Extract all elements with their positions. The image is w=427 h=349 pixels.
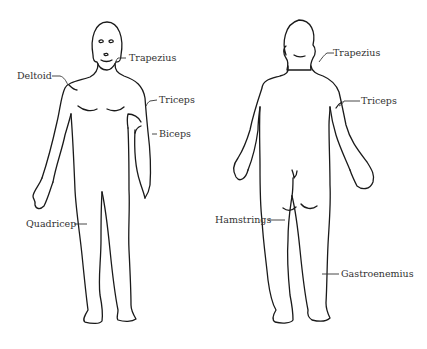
front-figure [33,22,150,323]
label-triceps-back: Triceps [361,96,397,106]
label-triceps-front: Triceps [159,95,195,105]
label-quadricep: Quadricep [26,219,76,229]
label-hamstrings: Hamstrings [215,215,271,225]
label-gastrocnemius: Gastroenemius [341,269,414,279]
label-trapezius-front: Trapezius [129,53,176,63]
muscle-diagram: Deltoid Trapezius Triceps Biceps Quadric… [0,0,427,349]
label-trapezius-back: Trapezius [333,48,380,58]
label-deltoid: Deltoid [17,71,52,81]
leader-lines [52,53,360,274]
label-biceps: Biceps [159,129,191,139]
